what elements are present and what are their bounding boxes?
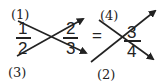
right-denominator: 4 xyxy=(127,43,136,60)
middle-numerator: 2 xyxy=(66,20,75,37)
middle-denominator: 3 xyxy=(66,40,75,57)
left-numerator: 1 xyxy=(18,20,27,37)
equals-sign: = xyxy=(92,27,102,44)
right-numerator: 3 xyxy=(127,24,136,41)
step-label-4: (4) xyxy=(100,9,118,22)
step-label-3: (3) xyxy=(8,66,26,79)
step-label-2: (2) xyxy=(97,68,115,81)
left-denominator: 2 xyxy=(18,40,27,57)
